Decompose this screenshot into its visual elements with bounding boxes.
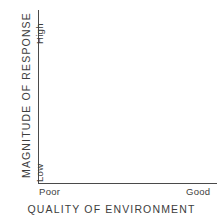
x-axis-title: QUALITY OF ENVIRONMENT: [0, 203, 223, 215]
y-axis-tick-low: Low: [34, 164, 45, 182]
x-axis-line: [38, 183, 217, 184]
y-axis-tick-high: High: [34, 23, 45, 44]
chart-figure: MAGNITUDE OF RESPONSE High Low Poor Good…: [0, 0, 223, 223]
plot-area: [39, 10, 217, 183]
x-axis-tick-good: Good: [186, 186, 210, 197]
y-axis-title: MAGNITUDE OF RESPONSE: [20, 12, 32, 178]
x-axis-tick-poor: Poor: [39, 186, 60, 197]
